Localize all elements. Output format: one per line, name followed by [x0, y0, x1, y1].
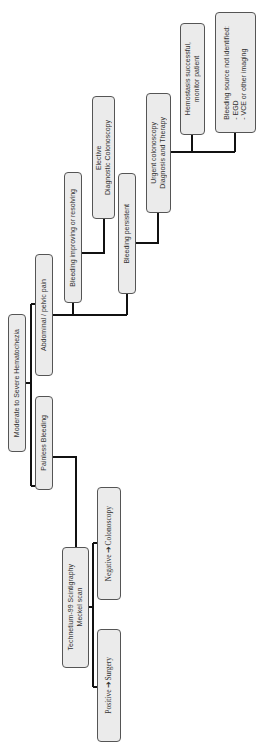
node-label: Technetium-99 Scintigraphy Meckel scan: [67, 564, 84, 650]
node-label: Urgent colonoscopy Diagnosis and Therapy: [150, 117, 167, 189]
node-abdominal-pelvic-pain: Abdominal / pelvic pain: [35, 254, 53, 376]
node-label: Painless Bleeding: [40, 415, 49, 471]
node-hemostasis-successful: Hemostasis successful, monitor patient: [180, 23, 205, 135]
node-label: Bleeding improving or resolving: [69, 189, 78, 287]
node-label: Positive ➔Surgery: [105, 657, 114, 714]
node-painless-bleeding: Painless Bleeding: [35, 396, 53, 490]
node-moderate-severe-hematochezia: Moderate to Severe Hematochezia: [8, 314, 26, 452]
node-label: Bleeding source not identified: - EGD - …: [223, 26, 249, 120]
node-label: Bleeding persistent: [123, 204, 132, 264]
node-technetium-scintigraphy: Technetium-99 Scintigraphy Meckel scan: [62, 547, 89, 668]
node-bleeding-persistent: Bleeding persistent: [118, 173, 136, 294]
node-urgent-colonoscopy: Urgent colonoscopy Diagnosis and Therapy: [146, 93, 171, 213]
node-label: Moderate to Severe Hematochezia: [13, 329, 22, 437]
node-label: Elective Diagnostic Colonoscopy: [95, 120, 112, 195]
node-label: Negative ➔Colonoscopy: [105, 506, 114, 582]
node-label: Abdominal / pelvic pain: [40, 279, 49, 351]
node-label: Hemostasis successful, monitor patient: [184, 42, 201, 115]
node-bleeding-source-not-identified: Bleeding source not identified: - EGD - …: [215, 12, 256, 133]
node-negative-colonoscopy: Negative ➔Colonoscopy: [97, 487, 121, 600]
node-positive-surgery: Positive ➔Surgery: [97, 629, 121, 742]
node-bleeding-improving: Bleeding improving or resolving: [64, 172, 82, 303]
node-elective-colonoscopy: Elective Diagnostic Colonoscopy: [92, 96, 115, 219]
